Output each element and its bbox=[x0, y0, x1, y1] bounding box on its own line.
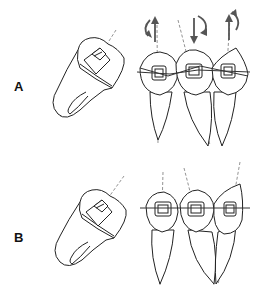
orthodontic-diagram bbox=[0, 0, 264, 290]
bracket-icon bbox=[152, 64, 235, 80]
panel-a-molar bbox=[53, 30, 124, 118]
panel-b-molar bbox=[55, 176, 126, 266]
panel-b-teeth-row bbox=[140, 162, 250, 285]
panel-a-teeth-row bbox=[137, 9, 250, 146]
bracket-icon bbox=[155, 202, 236, 216]
movement-arrow-icon bbox=[145, 9, 238, 44]
